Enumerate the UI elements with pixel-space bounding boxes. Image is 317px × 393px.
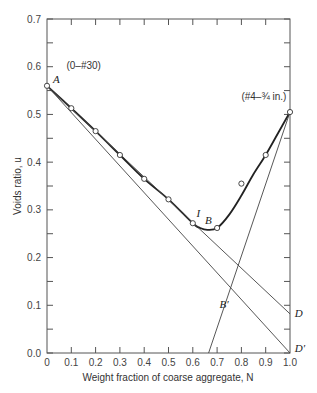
x-tick-label: 0.9	[259, 357, 273, 368]
x-tick-label: 0.3	[113, 357, 127, 368]
x-tick-label: 0.8	[234, 357, 248, 368]
annotation-note: (#4–¾ in.)	[241, 91, 286, 102]
point-label-a: A	[52, 73, 60, 85]
point-label-d: D	[294, 307, 303, 319]
x-tick-label: 0.4	[137, 357, 151, 368]
y-axis-title: Voids ratio, u	[12, 157, 23, 215]
point-label-b: B	[205, 214, 212, 226]
point-label-i: I	[195, 207, 201, 219]
data-point	[287, 109, 292, 114]
point-label-d-prime: D′	[294, 342, 306, 354]
x-tick-label: 1.0	[283, 357, 297, 368]
data-point	[93, 129, 98, 134]
x-axis-title: Weight fraction of coarse aggregate, N	[82, 372, 253, 383]
y-tick-label: 0.6	[27, 61, 41, 72]
x-tick-label: 0.6	[186, 357, 200, 368]
fitted-curve	[47, 86, 290, 230]
x-tick-label: 0.5	[162, 357, 176, 368]
annotations: (0–#30)(#4–¾ in.)AIBB′DD′	[52, 60, 306, 353]
y-tick-label: 0.3	[27, 204, 41, 215]
annotation-note: (0–#30)	[66, 60, 100, 71]
data-point	[215, 225, 220, 230]
data-point	[44, 83, 49, 88]
y-tick-label: 0.0	[27, 348, 41, 359]
y-tick-label: 0.5	[27, 109, 41, 120]
point-label-b-prime: B′	[220, 298, 230, 310]
data-point	[117, 152, 122, 157]
data-point	[190, 221, 195, 226]
y-tick-label: 0.4	[27, 157, 41, 168]
data-points	[44, 83, 292, 230]
x-tick-label: 0.2	[89, 357, 103, 368]
data-point	[166, 197, 171, 202]
voids-ratio-chart: 00.10.20.30.40.50.60.70.80.91.00.00.10.2…	[0, 0, 317, 393]
series-lines	[47, 86, 290, 353]
data-point	[142, 176, 147, 181]
reference-line	[209, 112, 290, 353]
y-tick-label: 0.1	[27, 300, 41, 311]
x-tick-label: 0	[44, 357, 50, 368]
y-tick-label: 0.2	[27, 252, 41, 263]
data-point	[239, 181, 244, 186]
x-tick-label: 0.7	[210, 357, 224, 368]
x-tick-label: 0.1	[64, 357, 78, 368]
y-tick-label: 0.7	[27, 14, 41, 25]
data-point	[263, 152, 268, 157]
data-point	[69, 106, 74, 111]
